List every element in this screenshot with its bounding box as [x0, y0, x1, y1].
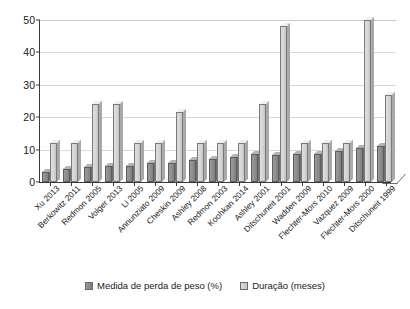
bar-weight-loss: [63, 169, 70, 182]
bar-front-face: [50, 143, 57, 182]
bar-side-face: [162, 140, 165, 182]
bar-side-face: [204, 140, 207, 182]
bar-group: [145, 20, 166, 182]
legend-item-weight-loss: Medida de perda de peso (%): [85, 280, 222, 291]
bar-weight-loss: [84, 167, 91, 182]
bar-duration: [176, 112, 183, 182]
bar-weight-loss: [147, 163, 154, 182]
bar-group: [333, 20, 354, 182]
bar-weight-loss: [251, 154, 258, 182]
bar-group: [270, 20, 291, 182]
bar-group: [82, 20, 103, 182]
bar-weight-loss: [126, 166, 133, 182]
bar-side-face: [99, 101, 102, 182]
bar-group: [166, 20, 187, 182]
bar-side-face: [120, 101, 123, 182]
bar-weight-loss: [168, 163, 175, 182]
legend-swatch-icon-weight-loss: [85, 282, 93, 290]
bar-duration: [259, 104, 266, 182]
bar-front-face: [92, 104, 99, 182]
bar-duration: [50, 143, 57, 182]
bar-group: [312, 20, 333, 182]
bar-weight-loss: [293, 154, 300, 182]
bar-front-face: [176, 112, 183, 182]
bar-side-face: [308, 140, 311, 182]
bar-duration: [92, 104, 99, 182]
legend-swatch-icon-duration: [240, 282, 248, 290]
bar-weight-loss: [209, 159, 216, 182]
bar-front-face: [385, 95, 392, 182]
bar-front-face: [322, 143, 329, 182]
bar-front-face: [105, 166, 112, 182]
bar-side-face: [57, 140, 60, 182]
bar-front-face: [335, 151, 342, 182]
bar-group: [103, 20, 124, 182]
bar-front-face: [230, 157, 237, 182]
bar-duration: [71, 143, 78, 182]
bar-side-face: [287, 23, 290, 182]
bar-side-face: [329, 140, 332, 182]
bar-front-face: [168, 163, 175, 182]
bar-front-face: [364, 20, 371, 182]
bar-side-face: [78, 140, 81, 182]
bar-weight-loss: [105, 166, 112, 182]
bar-duration: [322, 143, 329, 182]
legend-label-weight-loss: Medida de perda de peso (%): [97, 280, 222, 291]
bar-front-face: [259, 104, 266, 182]
bar-front-face: [134, 143, 141, 182]
bar-front-face: [126, 166, 133, 182]
bar-front-face: [251, 154, 258, 182]
x-axis-labels: Xu 2013Berkowitz 2011Redmon 2005Volger 2…: [0, 184, 410, 270]
bar-weight-loss: [335, 151, 342, 182]
bar-duration: [217, 143, 224, 182]
bar-duration: [197, 143, 204, 182]
bar-front-face: [147, 163, 154, 182]
bar-front-face: [301, 143, 308, 182]
bar-front-face: [314, 154, 321, 183]
bar-chart: 01020304050 Xu 2013Berkowitz 2011Redmon …: [0, 0, 410, 309]
bar-side-face: [224, 140, 227, 182]
bar-side-face: [183, 109, 186, 182]
bar-front-face: [356, 148, 363, 182]
bar-front-face: [343, 143, 350, 182]
bar-front-face: [84, 167, 91, 182]
bar-front-face: [238, 143, 245, 182]
plot-area: 01020304050: [40, 20, 396, 182]
bar-front-face: [280, 26, 287, 182]
bar-duration: [301, 143, 308, 182]
bar-front-face: [377, 146, 384, 182]
legend-item-duration: Duração (meses): [240, 280, 325, 291]
bar-group: [40, 20, 61, 182]
bar-duration: [385, 95, 392, 182]
bar-group: [228, 20, 249, 182]
bar-group: [375, 20, 396, 182]
bar-weight-loss: [189, 160, 196, 182]
bar-duration: [113, 104, 120, 182]
bar-weight-loss: [272, 155, 279, 182]
bar-front-face: [189, 160, 196, 182]
bar-side-face: [266, 101, 269, 182]
bar-duration: [343, 143, 350, 182]
bar-group: [291, 20, 312, 182]
bar-duration: [134, 143, 141, 182]
bar-front-face: [63, 169, 70, 182]
bar-side-face: [141, 140, 144, 182]
bar-group: [61, 20, 82, 182]
bar-front-face: [71, 143, 78, 182]
bar-front-face: [155, 143, 162, 182]
bar-front-face: [272, 155, 279, 182]
bar-front-face: [197, 143, 204, 182]
bar-duration: [280, 26, 287, 182]
bar-weight-loss: [356, 148, 363, 182]
bar-weight-loss: [377, 146, 384, 182]
bar-group: [208, 20, 229, 182]
bar-front-face: [209, 159, 216, 182]
bar-group: [249, 20, 270, 182]
bar-group: [124, 20, 145, 182]
bar-weight-loss: [314, 154, 321, 183]
bar-group: [354, 20, 375, 182]
bar-group: [187, 20, 208, 182]
bar-side-face: [350, 140, 353, 182]
chart-legend: Medida de perda de peso (%) Duração (mes…: [0, 280, 410, 291]
bar-duration: [364, 20, 371, 182]
